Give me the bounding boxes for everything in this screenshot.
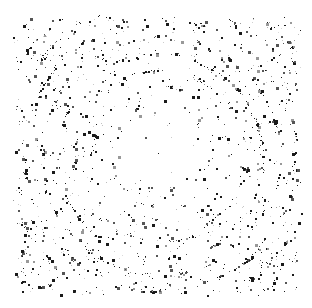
speckle-pattern-canvas	[0, 0, 312, 308]
speckle-image-stage	[0, 0, 312, 308]
